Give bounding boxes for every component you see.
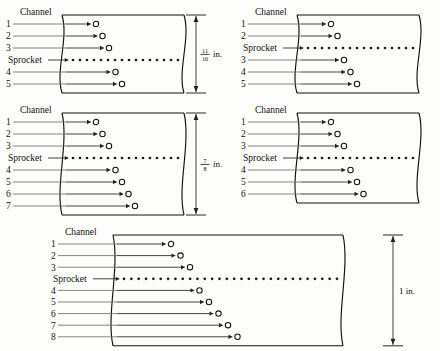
sprocket-hole <box>189 277 192 280</box>
sprocket-hole <box>363 47 366 50</box>
channel-number: 6 <box>51 309 56 319</box>
sprocket-hole <box>152 277 155 280</box>
sprocket-hole <box>107 59 110 62</box>
tape-diagram: Channel123Sprocket451116in. <box>0 4 240 108</box>
dimension-denominator: 16 <box>202 55 208 62</box>
sprocket-hole <box>349 157 352 160</box>
data-hole <box>361 191 366 196</box>
channel-number: 1 <box>6 117 11 127</box>
hole-pointer-arrowhead <box>329 132 333 136</box>
data-hole <box>341 143 346 148</box>
sprocket-hole <box>203 277 206 280</box>
sprocket-hole <box>356 47 359 50</box>
sprocket-hole <box>307 47 310 50</box>
sprocket-hole <box>181 277 184 280</box>
data-hole <box>178 253 183 258</box>
sprocket-hole <box>174 277 177 280</box>
sprocket-hole <box>159 277 162 280</box>
channel-number: 1 <box>241 19 246 29</box>
channel-number: 3 <box>6 141 11 151</box>
sprocket-hole <box>218 277 221 280</box>
data-hole <box>335 131 340 136</box>
data-hole <box>341 57 346 62</box>
sprocket-hole <box>314 157 317 160</box>
sprocket-hole <box>277 277 280 280</box>
dimension-value: 1 in. <box>399 286 415 296</box>
data-hole <box>106 143 111 148</box>
hole-pointer-arrowhead <box>322 22 326 26</box>
data-hole <box>354 179 359 184</box>
hole-pointer-arrowhead <box>113 82 117 86</box>
channel-number: 4 <box>241 165 246 175</box>
sprocket-hole <box>342 47 345 50</box>
hole-pointer-arrowhead <box>191 288 195 292</box>
tape-right-edge <box>182 113 186 215</box>
hole-pointer-arrowhead <box>342 70 346 74</box>
sprocket-hole <box>121 157 124 160</box>
channel-number: 1 <box>6 19 11 29</box>
tape-right-edge <box>182 15 186 93</box>
sprocket-hole <box>335 47 338 50</box>
channel-heading: Channel <box>20 7 52 17</box>
sprocket-hole <box>292 277 295 280</box>
data-hole <box>119 179 124 184</box>
hole-pointer-arrowhead <box>181 265 185 269</box>
sprocket-hole <box>93 157 96 160</box>
data-hole <box>335 33 340 38</box>
hole-pointer-arrowhead <box>162 242 166 246</box>
sprocket-hole <box>384 157 387 160</box>
sprocket-hole <box>142 157 145 160</box>
channel-number: 1 <box>241 117 246 127</box>
sprocket-hole <box>270 277 273 280</box>
sprocket-hole <box>299 277 302 280</box>
channel-number: 6 <box>6 189 11 199</box>
channel-number: 2 <box>6 31 11 41</box>
sprocket-hole <box>398 157 401 160</box>
hole-pointer-arrowhead <box>172 253 176 257</box>
sprocket-hole <box>72 59 75 62</box>
channel-number: 7 <box>51 321 56 331</box>
sprocket-label: Sprocket <box>243 43 277 53</box>
sprocket-hole <box>328 277 331 280</box>
channel-number: 3 <box>51 263 56 273</box>
channel-number: 5 <box>51 297 56 307</box>
sprocket-hole <box>128 59 131 62</box>
dimension-arrowhead-top <box>194 16 199 22</box>
sprocket-pointer-arrowhead <box>65 156 69 160</box>
channel-heading: Channel <box>20 105 52 115</box>
data-hole <box>206 299 211 304</box>
hole-pointer-arrowhead <box>107 168 111 172</box>
data-hole <box>119 81 124 86</box>
sprocket-hole <box>100 59 103 62</box>
dimension-unit: in. <box>213 159 222 169</box>
tape-diagram: Channel123Sprocket456778in. <box>0 102 240 230</box>
hole-pointer-arrowhead <box>335 58 339 62</box>
channel-number: 2 <box>51 251 56 261</box>
sprocket-hole <box>163 59 166 62</box>
channel-number: 5 <box>6 79 11 89</box>
sprocket-hole <box>336 277 339 280</box>
hole-pointer-arrowhead <box>348 82 352 86</box>
channel-number: 7 <box>6 201 11 211</box>
sprocket-hole <box>93 59 96 62</box>
sprocket-hole <box>363 157 366 160</box>
dimension-arrowhead-bottom <box>391 339 396 345</box>
dimension-unit: in. <box>213 49 222 59</box>
channel-number: 5 <box>241 79 246 89</box>
sprocket-hole <box>196 277 199 280</box>
sprocket-hole <box>225 277 228 280</box>
hole-pointer-arrowhead <box>94 132 98 136</box>
sprocket-hole <box>377 157 380 160</box>
sprocket-hole <box>335 157 338 160</box>
tape-diagram: Channel123Sprocket456781 in. <box>45 224 437 351</box>
channel-number: 3 <box>241 55 246 65</box>
data-hole <box>100 131 105 136</box>
hole-pointer-arrowhead <box>100 144 104 148</box>
sprocket-hole <box>255 277 258 280</box>
data-hole <box>132 203 137 208</box>
sprocket-hole <box>149 59 152 62</box>
data-hole <box>126 191 131 196</box>
sprocket-label: Sprocket <box>8 153 42 163</box>
hole-pointer-arrowhead <box>229 335 233 339</box>
data-hole <box>216 311 221 316</box>
